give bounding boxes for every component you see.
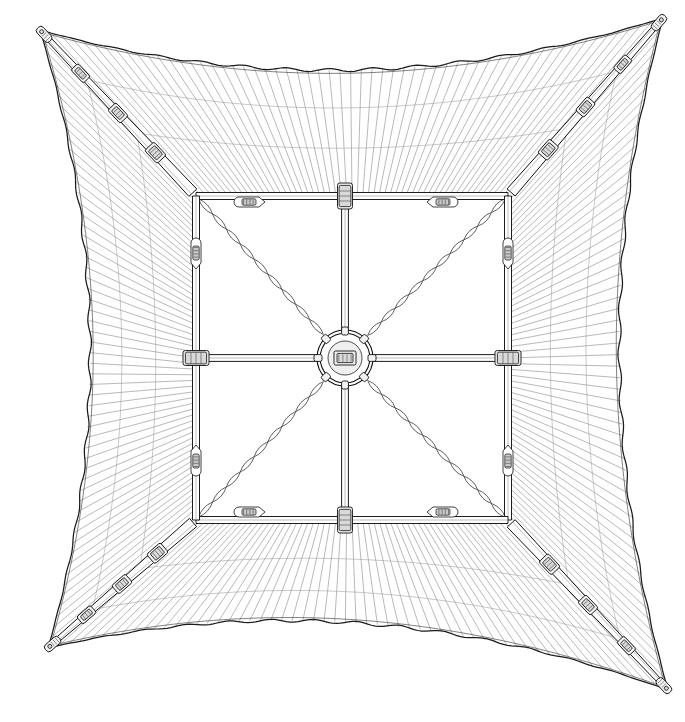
fabric-clamp-fitting-bottom-left	[234, 507, 265, 517]
rib-joint-collar-east	[495, 351, 521, 366]
fabric-clamp-fitting-bottom-right	[427, 507, 458, 517]
fabric-clamp-fitting-top-left	[234, 197, 265, 207]
hub-lug-body	[342, 327, 349, 335]
clamp-insert	[242, 199, 256, 205]
clamp-insert	[242, 509, 256, 515]
clamp-insert	[436, 509, 450, 515]
drawing-canvas	[0, 0, 685, 722]
hub-lug-body	[314, 355, 322, 362]
fabric-clamp-fitting-top-right	[427, 197, 458, 207]
hub-spoke-lug	[342, 327, 349, 335]
fabric-clamp-fitting-right-lower	[503, 445, 513, 476]
clamp-insert	[505, 246, 511, 260]
hub-spoke-lug	[368, 355, 376, 362]
hub-spoke-lug	[314, 355, 322, 362]
hub-center-insert	[337, 353, 353, 362]
central-hub-group	[314, 327, 376, 389]
clamp-insert	[193, 454, 199, 468]
rib-joint-collar-north	[338, 183, 353, 209]
clamp-insert	[505, 454, 511, 468]
clamp-insert	[193, 246, 199, 260]
hub-spoke-lug	[342, 381, 349, 389]
hub-lug-body	[342, 381, 349, 389]
hub-lug-body	[368, 355, 376, 362]
technical-drawing-svg	[0, 0, 685, 722]
rib-joint-collar-south	[338, 507, 353, 533]
fabric-clamp-fitting-left-upper	[191, 238, 201, 269]
fabric-clamp-fitting-left-lower	[191, 445, 201, 476]
clamp-insert	[436, 199, 450, 205]
rib-joint-collar-west	[183, 351, 209, 366]
fabric-clamp-fitting-right-upper	[503, 238, 513, 269]
